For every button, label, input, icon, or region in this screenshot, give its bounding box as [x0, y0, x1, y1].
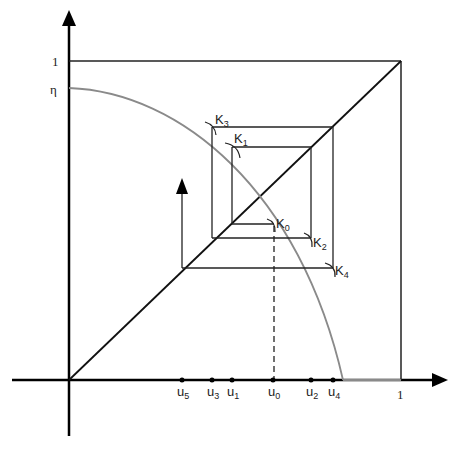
y-tick-1: 1 [52, 54, 59, 69]
cobweb-diagram: 1 η 1 K3 K1 K0 K2 K4 u5 u3 u1 u0 u2 u4 [0, 0, 464, 449]
label-u1: u1 [227, 384, 239, 401]
diagonal-line [69, 61, 401, 380]
label-u3: u3 [207, 384, 219, 401]
cobweb-path [182, 127, 333, 268]
y-tick-eta: η [50, 82, 57, 97]
label-u5: u5 [177, 384, 189, 401]
eta-curve [69, 88, 343, 380]
x-tick-1: 1 [397, 387, 404, 402]
up-arrow-icon [176, 178, 188, 194]
x-axis-arrow-icon [432, 373, 448, 387]
y-axis-arrow-icon [62, 10, 76, 26]
label-k2: K2 [313, 235, 327, 252]
label-u2: u2 [306, 384, 318, 401]
label-u0: u0 [268, 384, 280, 401]
label-k4: K4 [335, 263, 349, 280]
label-k1: K1 [234, 131, 248, 148]
label-k3: K3 [215, 112, 229, 129]
label-u4: u4 [328, 384, 340, 401]
label-k0: K0 [276, 216, 290, 233]
